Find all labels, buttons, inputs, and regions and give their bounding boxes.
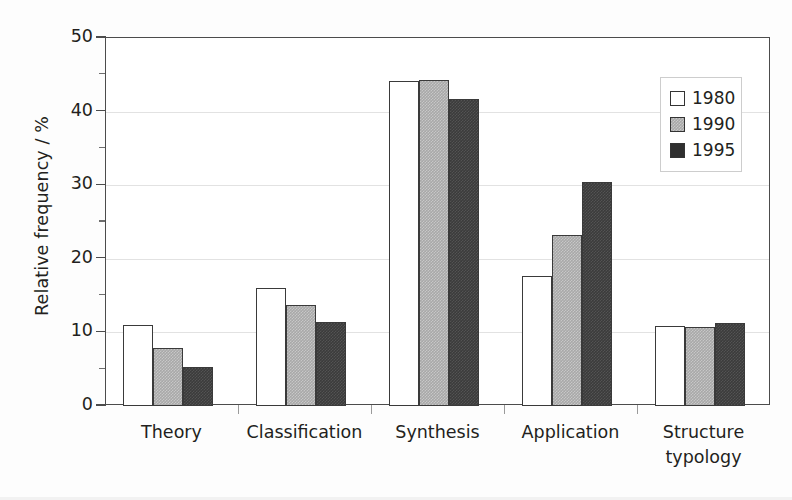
- x-tick-4: [637, 405, 638, 414]
- legend-label-1980: 1980: [692, 90, 735, 107]
- bar-classification-1995: [316, 322, 346, 406]
- y-tick-label-40: 40: [33, 102, 93, 120]
- bar-theory-1990: [153, 348, 183, 406]
- bar-synthesis-1990: [419, 80, 449, 406]
- bar-classification-1980: [256, 288, 286, 406]
- legend-item-1990[interactable]: 1990: [670, 111, 732, 137]
- category-label-structure-typology: Structuretypology: [637, 420, 770, 470]
- legend[interactable]: 1980 1990 1995: [660, 77, 742, 172]
- category-label-synthesis: Synthesis: [371, 420, 504, 445]
- category-label-line: Application: [504, 420, 637, 445]
- category-label-line: Classification: [238, 420, 371, 445]
- legend-item-1980[interactable]: 1980: [670, 85, 732, 111]
- y-axis-title: Relative frequency / %: [32, 36, 52, 396]
- category-label-line: Theory: [105, 420, 238, 445]
- bar-synthesis-1980: [389, 81, 419, 406]
- bar-structure-typology-1980: [655, 326, 685, 406]
- category-label-line: Structure: [637, 420, 770, 445]
- category-label-application: Application: [504, 420, 637, 445]
- x-tick-2: [371, 405, 372, 414]
- legend-swatch-1995-icon: [670, 143, 685, 158]
- y-tick-label-30: 30: [33, 175, 93, 193]
- y-tick-label-0: 0: [33, 396, 93, 414]
- bar-chart-figure: Relative frequency / % 01020304050 Theor…: [0, 0, 792, 500]
- bar-classification-1990: [286, 305, 316, 406]
- bar-theory-1995: [183, 367, 213, 406]
- bar-theory-1980: [123, 325, 153, 406]
- bar-structure-typology-1990: [685, 327, 715, 406]
- legend-label-1990: 1990: [692, 116, 735, 133]
- bar-application-1990: [552, 235, 582, 406]
- category-label-classification: Classification: [238, 420, 371, 445]
- category-label-line: Synthesis: [371, 420, 504, 445]
- category-label-theory: Theory: [105, 420, 238, 445]
- bar-structure-typology-1995: [715, 323, 745, 406]
- y-tick-label-50: 50: [33, 28, 93, 46]
- legend-item-1995[interactable]: 1995: [670, 137, 732, 163]
- bar-synthesis-1995: [449, 99, 479, 406]
- category-label-line: typology: [637, 445, 770, 470]
- bar-application-1995: [582, 182, 612, 406]
- x-tick-3: [504, 405, 505, 414]
- y-tick-label-10: 10: [33, 322, 93, 340]
- y-tick-label-20: 20: [33, 249, 93, 267]
- legend-swatch-1990-icon: [670, 117, 685, 132]
- x-tick-1: [238, 405, 239, 414]
- bar-application-1980: [522, 276, 552, 406]
- legend-swatch-1980-icon: [670, 91, 685, 106]
- legend-label-1995: 1995: [692, 142, 735, 159]
